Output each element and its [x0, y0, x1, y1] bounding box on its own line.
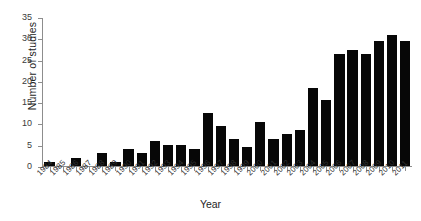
x-axis-tick-labels: 1984198519861987198819891990199119921993… — [43, 171, 412, 197]
bar-slot — [96, 18, 109, 166]
y-axis-tick-label: 15 — [12, 97, 32, 107]
figure-caption — [6, 214, 416, 221]
y-axis-tick-label: 20 — [12, 76, 32, 86]
y-axis-tick: 30 — [38, 39, 42, 40]
bar-slot — [254, 18, 267, 166]
bar-slot — [267, 18, 280, 166]
y-axis-tick: 15 — [38, 103, 42, 104]
bar-slot — [56, 18, 69, 166]
bar-slot — [162, 18, 175, 166]
bar-slot — [214, 18, 227, 166]
x-axis-title: Year — [0, 198, 421, 210]
y-axis-tick-label: 35 — [12, 12, 32, 22]
y-axis-tick-label: 30 — [12, 33, 32, 43]
bar-slot — [333, 18, 346, 166]
bar-slot — [69, 18, 82, 166]
y-axis-tick: 5 — [38, 146, 42, 147]
bar — [374, 41, 384, 166]
plot-area: 05101520253035 — [42, 18, 412, 167]
bar-slot — [372, 18, 385, 166]
bar-slot — [399, 18, 412, 166]
x-axis-label-slot: 2011 — [399, 171, 412, 197]
y-axis-tick: 10 — [38, 124, 42, 125]
bar-slot — [385, 18, 398, 166]
bar — [361, 54, 371, 166]
bar-slot — [43, 18, 56, 166]
bar-slot — [346, 18, 359, 166]
bar-series — [43, 18, 412, 166]
bar — [400, 41, 410, 166]
bar — [308, 88, 318, 166]
bar — [334, 54, 344, 166]
bar — [387, 35, 397, 166]
bar-slot — [320, 18, 333, 166]
bar-slot — [241, 18, 254, 166]
bar-slot — [293, 18, 306, 166]
bar-slot — [148, 18, 161, 166]
bar-slot — [201, 18, 214, 166]
y-axis-tick-label: 10 — [12, 118, 32, 128]
bar-slot — [109, 18, 122, 166]
y-axis-tick-label: 25 — [12, 55, 32, 65]
bar-slot — [280, 18, 293, 166]
bar — [347, 50, 357, 166]
bar — [321, 100, 331, 166]
y-axis-tick-label: 0 — [12, 161, 32, 171]
bar-slot — [135, 18, 148, 166]
y-axis-tick: 20 — [38, 82, 42, 83]
bar-slot — [175, 18, 188, 166]
bar-slot — [188, 18, 201, 166]
bar-slot — [359, 18, 372, 166]
y-axis-tick: 25 — [38, 61, 42, 62]
bar-slot — [306, 18, 319, 166]
bar-slot — [122, 18, 135, 166]
y-axis-tick: 35 — [38, 18, 42, 19]
y-axis-tick-label: 5 — [12, 140, 32, 150]
figure-container: Number of studies 05101520253035 1984198… — [0, 0, 421, 221]
bar-slot — [227, 18, 240, 166]
bar-slot — [83, 18, 96, 166]
